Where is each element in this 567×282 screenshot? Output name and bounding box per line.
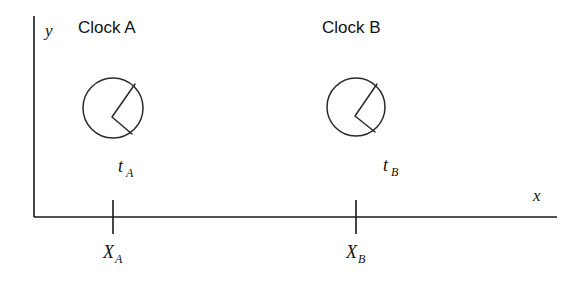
clock-a-title: Clock A [78, 18, 136, 37]
tick-label-b-subscript: B [358, 252, 366, 266]
clock-a-hands [112, 84, 135, 134]
clock-b-face [327, 78, 385, 136]
tick-label-b-main: X [345, 242, 358, 262]
x-axis-label: x [532, 186, 541, 205]
clock-a-time-label-main: t [118, 156, 124, 176]
diagram-canvas: y x X A X B Clock A t A Clock B t B [0, 0, 567, 282]
tick-label-a-subscript: A [114, 252, 123, 266]
clock-b-title: Clock B [322, 18, 381, 37]
clock-b-time-label-main: t [383, 155, 389, 175]
clock-b-time-label-subscript: B [391, 165, 399, 179]
clock-a-time-label-subscript: A [125, 166, 134, 180]
clock-diagram-figure: y x X A X B Clock A t A Clock B t B [0, 0, 567, 282]
clock-a-face [83, 78, 143, 138]
y-axis-label: y [43, 21, 53, 40]
clock-b-hands [355, 84, 377, 132]
tick-label-a-main: X [102, 242, 115, 262]
